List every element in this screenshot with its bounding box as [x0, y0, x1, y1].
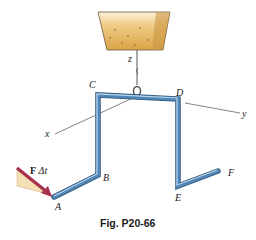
point-label-e: E	[174, 192, 181, 203]
point-label-f: F	[227, 167, 235, 178]
axis-label-x: x	[44, 128, 50, 139]
impulse-label: F Δt	[30, 165, 47, 176]
point-label-b: B	[103, 172, 109, 183]
axis-label-y: y	[241, 108, 247, 119]
axis-label-z: z	[127, 53, 132, 64]
sand-hopper	[98, 12, 170, 50]
suspension-wire	[134, 50, 141, 96]
figure-p20-66: z x y F Δt A B C D E F Fig. P20-66	[0, 0, 256, 240]
point-label-a: A	[54, 201, 62, 212]
y-axis-line	[185, 103, 240, 113]
bent-rod	[54, 94, 218, 197]
figure-caption: Fig. P20-66	[100, 217, 156, 229]
point-label-c: C	[89, 79, 96, 90]
point-label-d: D	[175, 87, 184, 98]
